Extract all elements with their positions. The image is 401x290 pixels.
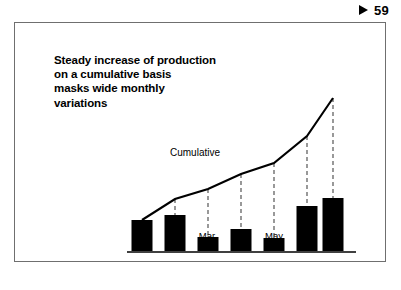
combo-chart-canvas xyxy=(15,23,387,263)
exhibit-frame: Steady increase of production on a cumul… xyxy=(14,22,386,262)
x-axis-label-jul: Jul. xyxy=(326,231,341,241)
x-axis-labels: Jan.Feb.Mar.Apr.MayJun.Jul. xyxy=(15,231,387,247)
x-axis-label-jan: Jan. xyxy=(133,231,151,241)
x-axis-label-feb: Feb. xyxy=(165,231,184,241)
x-axis-label-jun: Jun. xyxy=(298,231,316,241)
play-triangle-icon xyxy=(359,5,368,15)
x-axis-label-may: May xyxy=(265,231,283,241)
page-marker: 59 xyxy=(359,2,389,18)
x-axis-label-apr: Apr. xyxy=(233,231,250,241)
x-axis-label-mar: Mar. xyxy=(199,231,217,241)
cumulative-line-series xyxy=(142,98,333,220)
page-number: 59 xyxy=(374,4,389,17)
plot-area xyxy=(15,23,387,263)
cumulative-series-label: Cumulative xyxy=(170,148,220,158)
